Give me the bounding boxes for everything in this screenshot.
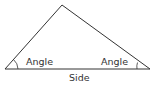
left-angle-arc — [14, 60, 19, 70]
left-angle-label: Angle — [26, 56, 53, 67]
right-angle-label: Angle — [101, 56, 128, 67]
side-label: Side — [69, 72, 90, 83]
triangle-diagram: Angle Angle Side — [0, 0, 159, 94]
right-angle-arc — [137, 63, 138, 70]
